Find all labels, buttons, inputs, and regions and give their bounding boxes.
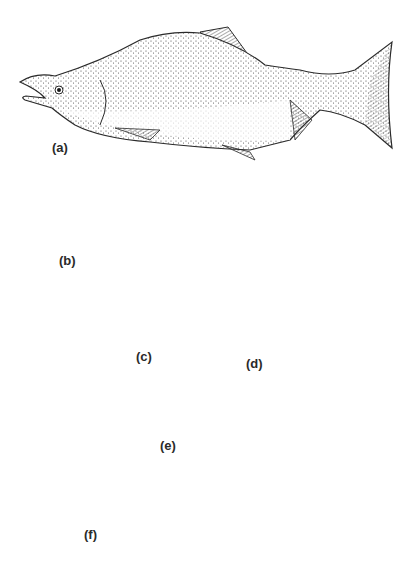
illustration-canvas [0,0,414,564]
panel-label-b: (b) [59,253,76,268]
panel-label-c: (c) [136,349,152,364]
fish-a-illustration [20,27,392,160]
panel-label-f: (f) [84,527,97,542]
panel-label-a: (a) [52,140,68,155]
panel-label-d: (d) [246,356,263,371]
salmon-life-stages-figure: (a) (b) (c) (d) (e) (f) [0,0,414,564]
panel-label-e: (e) [160,438,176,453]
